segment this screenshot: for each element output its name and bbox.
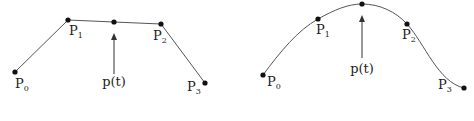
left-diagram: P0 P1 P2 P3 p(t) bbox=[12, 17, 207, 96]
label-p3: P3 bbox=[438, 77, 452, 94]
label-pt: p(t) bbox=[350, 61, 374, 76]
label-p1: P1 bbox=[316, 22, 330, 39]
right-diagram: P0 P1 P2 P3 p(t) bbox=[260, 1, 466, 94]
label-p3: P3 bbox=[187, 79, 201, 96]
label-p0: P0 bbox=[267, 74, 281, 91]
point-p3 bbox=[202, 80, 207, 85]
point-p0 bbox=[260, 72, 265, 77]
label-p2: P2 bbox=[402, 27, 416, 44]
diagram-canvas: P0 P1 P2 P3 p(t) P0 P1 P2 P3 p(t) bbox=[0, 0, 474, 121]
label-p0: P0 bbox=[15, 76, 29, 93]
point-p2 bbox=[158, 21, 163, 26]
point-pt bbox=[111, 19, 116, 24]
point-p0 bbox=[12, 69, 17, 74]
point-p1 bbox=[315, 16, 320, 21]
point-p3 bbox=[461, 85, 466, 90]
label-p2: P2 bbox=[153, 28, 167, 45]
point-p1 bbox=[65, 17, 70, 22]
label-p1: P1 bbox=[69, 23, 83, 40]
point-p2 bbox=[404, 21, 409, 26]
label-pt: p(t) bbox=[102, 74, 126, 89]
point-pt bbox=[359, 1, 364, 6]
